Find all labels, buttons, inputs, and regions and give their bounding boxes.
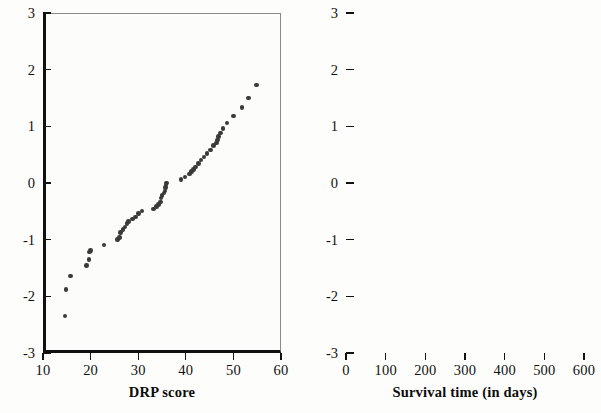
data-point xyxy=(159,196,164,201)
plot-area-left xyxy=(43,13,281,353)
data-point xyxy=(63,314,68,319)
data-point xyxy=(179,177,184,182)
data-point xyxy=(196,161,201,166)
data-point xyxy=(125,221,130,226)
data-point xyxy=(154,204,159,209)
x-axis-title-left: DRP score xyxy=(129,384,195,401)
y-tick-mark xyxy=(346,182,354,183)
data-point xyxy=(164,181,169,186)
y-tick-label: 0 xyxy=(312,175,338,192)
data-point xyxy=(164,183,169,188)
x-tick-label: 60 xyxy=(274,362,289,379)
data-point xyxy=(87,257,92,262)
y-tick-mark xyxy=(43,239,51,240)
x-tick-mark xyxy=(425,353,426,360)
chart-panel-survival-time: 0100200300400500600 -3-2-10123 Survival … xyxy=(300,0,601,413)
data-point xyxy=(151,207,156,212)
x-tick-label: 0 xyxy=(342,362,349,379)
x-tick-mark xyxy=(280,353,281,360)
chart-panel-drp-score: 102030405060 -3-2-10123 DRP score xyxy=(0,0,300,413)
y-tick-label: -3 xyxy=(9,345,35,362)
x-tick-mark xyxy=(42,353,43,360)
data-point xyxy=(254,83,259,88)
data-point xyxy=(102,243,107,248)
data-point xyxy=(123,225,128,230)
data-point xyxy=(68,274,73,279)
data-point xyxy=(183,175,188,180)
y-tick-mark xyxy=(43,352,51,353)
x-tick-label: 500 xyxy=(533,362,555,379)
data-point xyxy=(215,138,220,143)
data-point xyxy=(199,158,204,163)
x-tick-mark xyxy=(138,353,139,360)
y-tick-label: 3 xyxy=(9,5,35,22)
y-tick-mark xyxy=(346,69,354,70)
data-point xyxy=(246,96,251,101)
data-point xyxy=(64,287,69,292)
data-point xyxy=(163,185,168,190)
y-tick-label: 1 xyxy=(312,118,338,135)
y-tick-mark xyxy=(346,126,354,127)
y-tick-label: -3 xyxy=(312,345,338,362)
figure-root: 102030405060 -3-2-10123 DRP score 010020… xyxy=(0,0,601,413)
y-tick-label: -2 xyxy=(9,288,35,305)
data-point xyxy=(218,131,223,136)
y-tick-label: 2 xyxy=(9,61,35,78)
data-point xyxy=(211,143,216,148)
x-tick-mark xyxy=(385,353,386,360)
data-point xyxy=(160,193,165,198)
x-tick-label: 400 xyxy=(493,362,515,379)
x-tick-mark xyxy=(345,353,346,360)
x-axis-title-right: Survival time (in days) xyxy=(392,384,537,401)
data-point xyxy=(214,141,219,146)
x-tick-label: 600 xyxy=(573,362,595,379)
data-point xyxy=(162,191,167,196)
x-tick-label: 200 xyxy=(414,362,436,379)
data-point xyxy=(158,200,163,205)
y-tick-label: -1 xyxy=(9,231,35,248)
data-point xyxy=(225,121,230,126)
y-tick-label: 1 xyxy=(9,118,35,135)
data-point xyxy=(136,211,141,216)
x-tick-label: 50 xyxy=(226,362,241,379)
x-tick-mark xyxy=(583,353,584,360)
y-tick-label: -2 xyxy=(312,288,338,305)
y-tick-label: -1 xyxy=(312,231,338,248)
data-point xyxy=(216,134,221,139)
data-point xyxy=(130,217,135,222)
data-point xyxy=(191,167,196,172)
x-tick-label: 20 xyxy=(83,362,98,379)
y-tick-mark xyxy=(43,12,51,13)
data-point xyxy=(115,237,120,242)
data-point xyxy=(193,165,198,170)
x-tick-label: 30 xyxy=(131,362,146,379)
data-point xyxy=(140,209,145,214)
y-tick-mark xyxy=(346,296,354,297)
y-tick-mark xyxy=(346,12,354,13)
x-tick-mark xyxy=(185,353,186,360)
x-tick-mark xyxy=(233,353,234,360)
data-point xyxy=(189,169,194,174)
data-point xyxy=(117,235,122,240)
y-tick-mark xyxy=(43,126,51,127)
data-point xyxy=(202,155,207,160)
data-point xyxy=(163,189,168,194)
x-tick-label: 100 xyxy=(374,362,396,379)
data-point xyxy=(87,250,92,255)
data-point xyxy=(221,126,226,131)
y-tick-mark xyxy=(346,239,354,240)
y-tick-mark xyxy=(43,182,51,183)
data-point xyxy=(156,202,161,207)
data-point xyxy=(187,172,192,177)
y-tick-mark xyxy=(43,296,51,297)
data-point xyxy=(126,219,131,224)
data-point xyxy=(84,263,89,268)
data-point xyxy=(121,227,126,232)
data-point xyxy=(133,215,138,220)
y-tick-label: 0 xyxy=(9,175,35,192)
y-tick-label: 2 xyxy=(312,61,338,78)
x-tick-mark xyxy=(464,353,465,360)
x-tick-label: 10 xyxy=(36,362,51,379)
x-tick-label: 40 xyxy=(178,362,193,379)
x-tick-mark xyxy=(90,353,91,360)
